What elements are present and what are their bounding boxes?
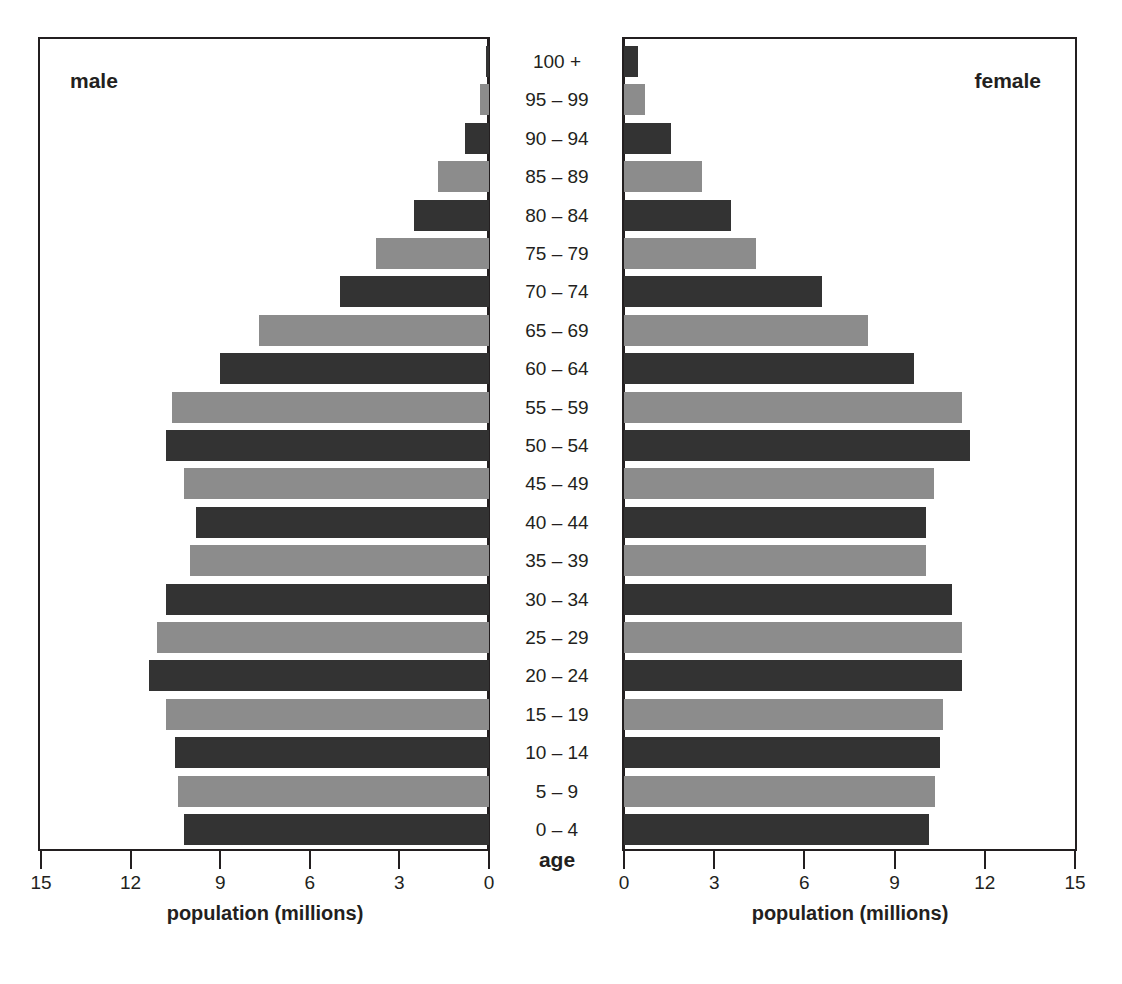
x-tick-label: 15 [21,872,61,894]
age-group-label: 35 – 39 [492,545,622,576]
male-bar [157,622,489,653]
male-bar [414,200,489,231]
age-group-label: 5 – 9 [492,776,622,807]
age-axis-title: age [492,848,622,872]
female-bar [624,660,962,691]
female-bar [624,430,970,461]
x-tick-label: 0 [604,872,644,894]
age-group-label: 40 – 44 [492,507,622,538]
female-bar [624,622,962,653]
age-group-label: 0 – 4 [492,814,622,845]
age-group-label: 95 – 99 [492,84,622,115]
female-bar [624,507,926,538]
female-bar [624,737,940,768]
age-group-label: 80 – 84 [492,200,622,231]
age-group-label: 65 – 69 [492,315,622,346]
x-tick-label: 6 [784,872,824,894]
x-tick [398,849,400,869]
male-bar [172,392,489,423]
x-tick-label: 3 [379,872,419,894]
male-panel-title: male [70,69,118,93]
female-bar [624,392,962,423]
age-group-label: 55 – 59 [492,392,622,423]
age-group-label: 70 – 74 [492,276,622,307]
female-bar [624,468,934,499]
male-bar [376,238,489,269]
female-x-axis-line [622,849,1077,851]
male-bar [196,507,489,538]
x-tick [713,849,715,869]
age-group-label: 100 + [492,46,622,77]
x-tick-label: 0 [469,872,509,894]
x-tick [309,849,311,869]
female-bar [624,46,638,77]
age-group-label: 75 – 79 [492,238,622,269]
female-bar [624,276,822,307]
female-bar [624,353,914,384]
age-group-label: 20 – 24 [492,660,622,691]
male-bar [190,545,489,576]
male-bar [184,814,489,845]
x-tick [130,849,132,869]
male-bar [178,776,489,807]
x-tick-label: 9 [875,872,915,894]
male-bar [340,276,489,307]
age-group-label: 60 – 64 [492,353,622,384]
female-bar [624,699,943,730]
male-bar [166,584,489,615]
male-bar [220,353,489,384]
male-bar [465,123,489,154]
male-bar [480,84,489,115]
female-bar [624,238,756,269]
x-tick [488,849,490,869]
female-bar [624,200,731,231]
age-group-label: 25 – 29 [492,622,622,653]
x-tick [40,849,42,869]
age-group-label: 50 – 54 [492,430,622,461]
x-tick [894,849,896,869]
male-bar [175,737,489,768]
male-bar [166,699,489,730]
x-tick-label: 9 [200,872,240,894]
female-bar [624,315,868,346]
male-bar [486,46,489,77]
male-bar [149,660,489,691]
male-bar [166,430,489,461]
female-bar [624,776,935,807]
male-x-axis-line [38,849,490,851]
age-group-label: 45 – 49 [492,468,622,499]
male-x-axis-title: population (millions) [65,902,465,925]
age-group-label: 10 – 14 [492,737,622,768]
female-bar [624,123,671,154]
female-panel-title: female [974,69,1041,93]
x-tick-label: 15 [1055,872,1095,894]
x-tick-label: 3 [694,872,734,894]
x-tick-label: 12 [111,872,151,894]
age-group-label: 30 – 34 [492,584,622,615]
female-bar [624,84,645,115]
x-tick-label: 6 [290,872,330,894]
female-bar [624,814,929,845]
x-tick [984,849,986,869]
x-tick-label: 12 [965,872,1005,894]
female-x-axis-title: population (millions) [650,902,1050,925]
female-bar [624,584,952,615]
male-bar [184,468,489,499]
female-bar [624,545,926,576]
x-tick [803,849,805,869]
x-tick [1074,849,1076,869]
male-bar [438,161,489,192]
age-group-label: 90 – 94 [492,123,622,154]
age-group-label: 15 – 19 [492,699,622,730]
female-bar [624,161,702,192]
male-bar [259,315,489,346]
x-tick [623,849,625,869]
x-tick [219,849,221,869]
age-group-label: 85 – 89 [492,161,622,192]
